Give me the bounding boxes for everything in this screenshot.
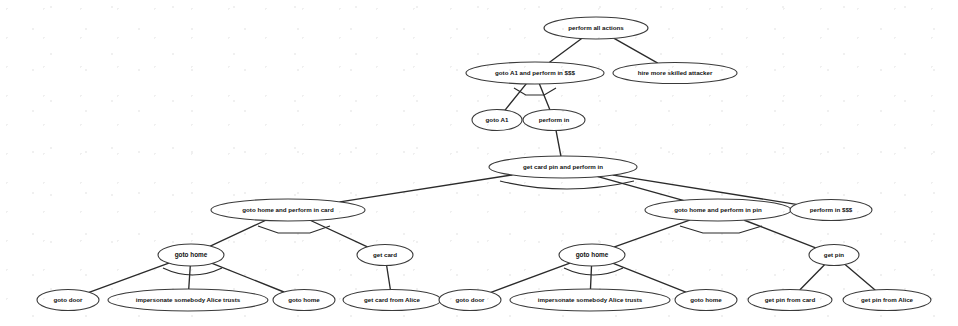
tree-node[interactable]: goto home [675,290,737,311]
tree-edge [212,263,284,292]
and-connector-arc [258,226,330,233]
tree-edge [340,175,512,202]
tree-edge [744,220,815,248]
tree-node[interactable]: goto home and perform in pin [645,199,791,221]
tree-node[interactable]: perform in $$$ [790,200,872,221]
tree-canvas: perform all actionsgoto A1 and perform i… [0,0,958,326]
tree-node[interactable]: goto door [439,290,501,311]
node-label: perform in $$$ [810,206,853,213]
node-label: goto home [175,251,208,259]
node-label: perform all actions [568,24,624,31]
node-label: get card [373,251,397,258]
node-label: get card from Alice [364,296,420,303]
attack-tree-diagram: perform all actionsgoto A1 and perform i… [0,0,958,326]
tree-edge [800,265,825,290]
tree-node[interactable]: impersonate somebody Alice trusts [510,289,670,311]
tree-node[interactable]: get pin from Alice [843,290,931,311]
tree-edge [550,39,582,63]
tree-node[interactable]: goto home [559,244,625,266]
node-label: goto A1 and perform in $$$ [495,69,575,76]
tree-edge [210,221,265,247]
node-label: impersonate somebody Alice trusts [538,296,643,303]
node-label: hire more skilled attacker [638,69,713,76]
node-label: goto home [690,296,722,303]
tree-edge [387,265,391,289]
tree-edge [598,177,683,201]
node-label: goto home [576,251,609,259]
tree-edge [505,84,526,110]
tree-node[interactable]: get pin [809,245,859,266]
node-label: goto home and perform in card [242,206,334,213]
and-connector-arc [514,88,556,95]
tree-edge [556,130,561,156]
tree-node[interactable]: goto home [273,290,335,311]
tree-node[interactable]: impersonate somebody Alice trusts [108,289,268,311]
tree-node[interactable]: get pin from card [748,290,832,311]
or-connector-arc [500,181,634,189]
tree-node[interactable]: get card pin and perform in [489,156,637,178]
node-label: get pin [824,251,844,258]
tree-edge [491,263,570,292]
tree-edge [590,266,591,289]
node-label: impersonate somebody Alice trusts [136,296,241,303]
and-connector-arc [680,226,762,233]
or-connector-arc [564,268,623,275]
tree-edge [189,266,191,289]
tree-node[interactable]: goto door [37,290,99,311]
tree-edge [311,221,368,247]
tree-node[interactable]: goto home [158,244,224,266]
node-label: get card pin and perform in [523,163,603,170]
tree-node[interactable]: get card from Alice [343,290,441,311]
node-label: goto home and perform in pin [674,206,762,213]
node-label: perform in [539,116,570,123]
node-label: get pin from Alice [861,296,914,303]
tree-node[interactable]: goto A1 and perform in $$$ [466,62,604,84]
connectors-group [163,88,762,275]
tree-node[interactable]: perform all actions [544,17,648,39]
node-label: goto home [288,296,320,303]
node-label: goto door [456,296,485,303]
tree-edge [539,84,549,110]
node-label: get pin from card [765,296,816,303]
tree-edge [613,263,686,292]
tree-node[interactable]: get card [357,245,413,266]
or-connector-arc [163,268,222,275]
tree-node[interactable]: hire more skilled attacker [613,63,737,84]
tree-edge [89,263,169,292]
tree-node[interactable]: perform in [523,110,585,131]
tree-edge [614,38,657,63]
nodes-group: perform all actionsgoto A1 and perform i… [37,17,931,311]
tree-edge [615,220,690,247]
node-label: goto A1 [486,116,509,123]
tree-edge [845,264,875,289]
tree-node[interactable]: goto A1 [472,110,522,131]
tree-node[interactable]: goto home and perform in card [211,199,365,221]
node-label: goto door [54,296,83,303]
